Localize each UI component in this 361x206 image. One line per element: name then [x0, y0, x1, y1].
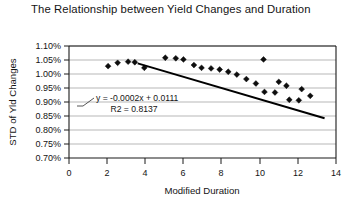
y-tick-label: 0.85% [35, 111, 61, 121]
y-axis-tick-labels: 1.10% 1.05% 1.00% 0.95% 0.90% 0.85% 0.80… [35, 41, 61, 163]
data-point-marker [276, 79, 282, 85]
x-axis-tick-labels: 0 2 4 6 8 10 12 14 [66, 168, 341, 178]
chart-figure: The Relationship between Yield Changes a… [0, 0, 361, 206]
y-tick-label: 0.90% [35, 97, 61, 107]
data-point-marker [173, 55, 179, 61]
x-axis-ticks [69, 158, 336, 164]
trendline-equation-label: y = -0.0002x + 0.0111 [96, 93, 179, 103]
x-tick-label: 4 [142, 168, 147, 178]
data-point-marker [208, 66, 214, 72]
scatter-plot: 1.10% 1.05% 1.00% 0.95% 0.90% 0.85% 0.80… [0, 0, 361, 206]
x-tick-label: 2 [104, 168, 109, 178]
data-point-marker [272, 90, 278, 96]
data-point-marker [299, 86, 305, 92]
y-axis-title: STD of Yld Changes [7, 58, 18, 145]
x-axis-title: Modified Duration [164, 185, 239, 196]
x-tick-label: 10 [255, 168, 265, 178]
y-tick-label: 0.70% [35, 153, 61, 163]
x-tick-label: 14 [331, 168, 341, 178]
x-tick-label: 6 [180, 168, 185, 178]
trendline-r2-label: R2 = 0.8137 [110, 104, 157, 114]
data-point-marker [125, 59, 131, 65]
data-point-marker [199, 65, 205, 71]
data-point-marker [253, 81, 259, 87]
data-point-marker [307, 93, 313, 99]
data-point-marker [234, 72, 240, 78]
data-point-marker [217, 67, 223, 73]
data-point-marker [261, 57, 267, 63]
y-axis-ticks [64, 46, 69, 158]
data-point-marker [181, 57, 187, 63]
data-point-marker [262, 89, 268, 95]
data-point-marker [191, 62, 197, 68]
data-point-marker [243, 76, 249, 82]
y-tick-label: 0.80% [35, 125, 61, 135]
data-point-marker [105, 63, 111, 69]
x-tick-label: 0 [66, 168, 71, 178]
x-tick-label: 8 [218, 168, 223, 178]
y-tick-label: 1.05% [35, 55, 61, 65]
x-tick-label: 12 [293, 168, 303, 178]
y-tick-label: 0.75% [35, 139, 61, 149]
y-tick-label: 0.95% [35, 83, 61, 93]
y-tick-label: 1.00% [35, 69, 61, 79]
y-tick-label: 1.10% [35, 41, 61, 51]
data-point-marker [115, 60, 121, 66]
